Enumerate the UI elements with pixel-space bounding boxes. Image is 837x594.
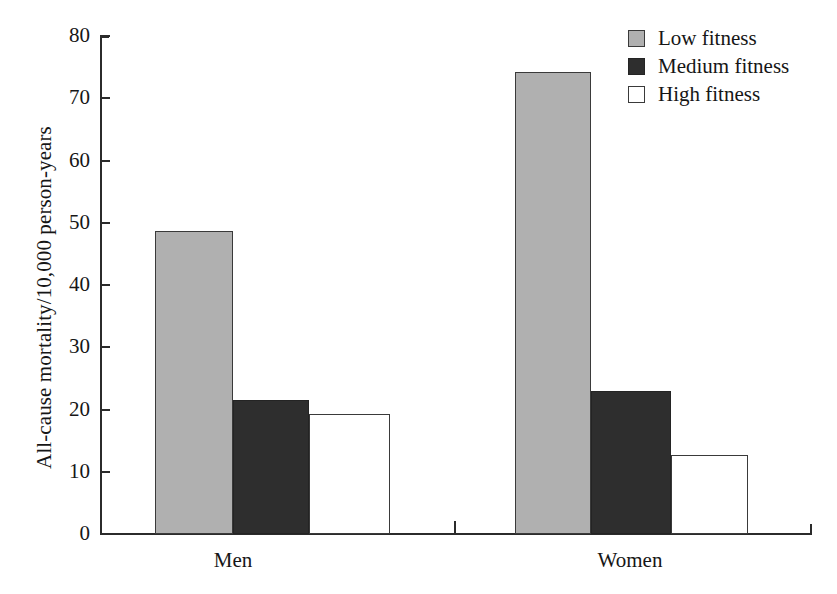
y-tick-50: [100, 222, 110, 224]
legend-label-high-fitness: High fitness: [658, 84, 760, 105]
y-tick-0: [100, 533, 110, 535]
y-tick-label-0: 0: [44, 521, 90, 546]
y-tick-label-30: 30: [44, 334, 90, 359]
y-tick-label-40: 40: [44, 272, 90, 297]
x-axis-label-women: Women: [560, 548, 700, 573]
legend-item-high-fitness: High fitness: [628, 80, 789, 108]
x-axis-right-cap: [810, 524, 812, 535]
y-tick-label-70: 70: [44, 85, 90, 110]
legend-label-medium-fitness: Medium fitness: [658, 56, 789, 77]
y-tick-40: [100, 284, 110, 286]
bar-men-high-fitness: [309, 414, 390, 534]
legend-item-medium-fitness: Medium fitness: [628, 52, 789, 80]
bar-men-medium-fitness: [233, 400, 309, 534]
x-axis-label-men: Men: [178, 548, 288, 573]
bar-women-low-fitness: [515, 72, 591, 534]
y-tick-80: [100, 35, 110, 37]
y-tick-30: [100, 346, 110, 348]
y-tick-60: [100, 160, 110, 162]
bar-women-high-fitness: [671, 455, 748, 534]
legend-item-low-fitness: Low fitness: [628, 24, 789, 52]
y-tick-70: [100, 97, 110, 99]
y-tick-label-50: 50: [44, 210, 90, 235]
x-axis-group-tick: [454, 521, 456, 534]
y-tick-label-80: 80: [44, 23, 90, 48]
legend-swatch-medium-icon: [628, 58, 645, 75]
bar-women-medium-fitness: [591, 391, 671, 534]
bar-men-low-fitness: [155, 231, 233, 534]
legend-label-low-fitness: Low fitness: [658, 28, 757, 49]
y-tick-label-60: 60: [44, 148, 90, 173]
y-tick-10: [100, 471, 110, 473]
y-tick-20: [100, 409, 110, 411]
legend: Low fitness Medium fitness High fitness: [628, 24, 789, 108]
legend-swatch-high-icon: [628, 86, 645, 103]
y-tick-label-20: 20: [44, 397, 90, 422]
y-tick-label-10: 10: [44, 459, 90, 484]
bar-chart: All-cause mortality/10,000 person-years …: [0, 0, 837, 594]
legend-swatch-low-icon: [628, 30, 645, 47]
